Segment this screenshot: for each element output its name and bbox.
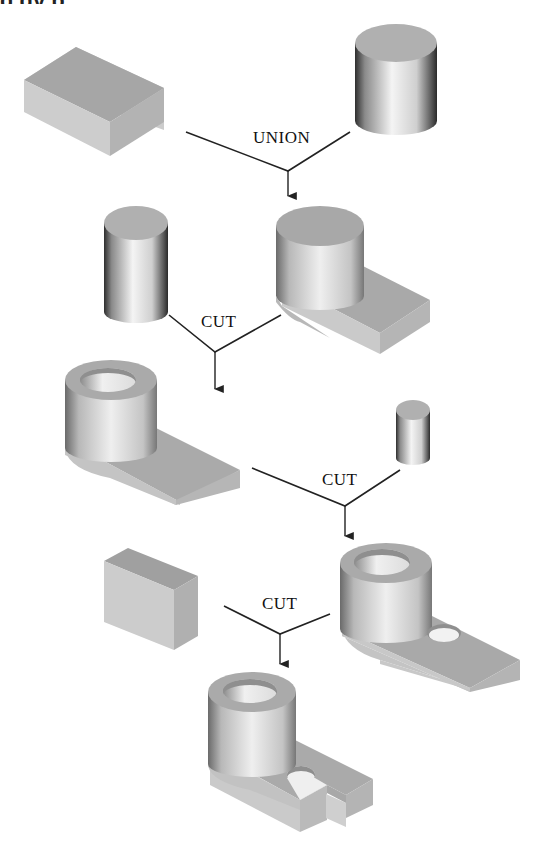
medium-cylinder xyxy=(104,206,168,323)
bored-boss-part xyxy=(65,360,240,505)
cutting-block xyxy=(104,548,198,650)
holed-part xyxy=(340,543,520,692)
cut-label-3: CUT xyxy=(262,594,298,614)
large-cylinder xyxy=(355,24,437,135)
final-slotted-part xyxy=(208,672,373,832)
cut-label-1: CUT xyxy=(201,312,237,332)
union-result xyxy=(276,206,430,354)
union-label: UNION xyxy=(253,128,310,148)
cut-label-2: CUT xyxy=(322,470,358,490)
rectangular-block xyxy=(24,47,164,156)
cut-connector-3 xyxy=(224,606,330,664)
small-cylinder xyxy=(396,400,430,465)
csg-figure: g gy p xyxy=(0,0,550,846)
